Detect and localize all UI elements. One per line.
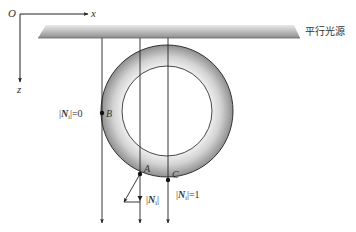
ring [101, 45, 233, 177]
normal-arrow [124, 174, 140, 202]
light-source-bar [38, 25, 300, 38]
norm-label-a: |Ni| [146, 194, 159, 206]
coordinate-axes: O x z [8, 7, 96, 95]
point-a [138, 172, 142, 176]
light-source-label: 平行光源 [305, 25, 345, 37]
parallel-light-source: 平行光源 [38, 25, 345, 38]
norm-label-c: |Ni|=1 [176, 189, 200, 201]
point-c-label: C [172, 169, 179, 180]
light-ring-diagram: O x z 平行光源 B A C |Ni|=0 [0, 0, 356, 232]
origin-label: O [8, 7, 16, 19]
point-b-label: B [106, 108, 112, 119]
inner-circle [122, 66, 212, 156]
x-axis-label: x [90, 7, 96, 19]
point-c [166, 178, 170, 182]
point-a-label: A [143, 163, 151, 174]
projection-arrowhead [138, 196, 143, 201]
norm-label-b: |Ni|=0 [59, 108, 83, 120]
z-axis-label: z [16, 83, 22, 95]
point-b [100, 111, 104, 115]
